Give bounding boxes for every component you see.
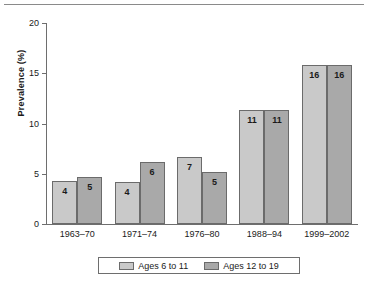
y-axis-tick-mark [42,174,47,175]
bar-value-label: 11 [240,115,263,125]
bar-value-label: 11 [265,115,288,125]
bar-value-label: 7 [178,162,201,172]
legend-entry[interactable]: Ages 6 to 11 [119,261,188,271]
y-axis-tick-label: 15 [29,68,39,78]
bar[interactable]: 6 [140,162,165,224]
x-axis-tick-label: 1971–74 [108,229,170,239]
bar[interactable]: 11 [239,110,264,224]
y-axis-tick-label: 10 [29,119,39,129]
legend-entry[interactable]: Ages 12 to 19 [204,261,279,271]
y-axis-tick-label: 0 [34,219,39,229]
legend-label: Ages 6 to 11 [138,261,188,271]
bar-chart-figure: Prevalence (%) 05101520 45467511111616 1… [0,0,372,288]
legend-label: Ages 12 to 19 [223,261,279,271]
bar-group: 1616 [302,23,352,224]
chart-legend: Ages 6 to 11Ages 12 to 19 [98,257,300,274]
bar-value-label: 4 [53,186,76,196]
x-axis-tick-label: 1999–2002 [296,229,358,239]
bar[interactable]: 5 [202,172,227,224]
legend-color-swatch [119,262,134,270]
top-divider [4,4,364,5]
bar[interactable]: 4 [52,181,77,224]
legend-color-swatch [204,262,219,270]
bar[interactable]: 4 [115,182,140,224]
bar-value-label: 6 [141,167,164,177]
bar-group: 1111 [239,23,289,224]
x-axis-line [46,224,358,225]
y-axis-tick-mark [42,73,47,74]
bar-group: 46 [115,23,165,224]
y-axis-tick-label: 20 [29,18,39,28]
y-axis-tick-mark [42,124,47,125]
plot-area: 05101520 45467511111616 1963–701971–7419… [46,23,358,224]
y-axis-title: Prevalence (%) [16,18,26,148]
y-axis-tick-mark [42,23,47,24]
y-axis-tick-label: 5 [34,169,39,179]
bar-group: 75 [177,23,227,224]
bar-value-label: 4 [116,187,139,197]
bar-value-label: 16 [303,70,326,80]
bar[interactable]: 11 [264,110,289,224]
bar-group: 45 [52,23,102,224]
bar[interactable]: 16 [302,65,327,224]
bar-value-label: 5 [78,182,101,192]
bar[interactable]: 16 [327,65,352,224]
bar-value-label: 5 [203,177,226,187]
x-axis-tick-label: 1988–94 [233,229,295,239]
x-axis-tick-label: 1976–80 [171,229,233,239]
bar-value-label: 16 [328,70,351,80]
x-axis-tick-label: 1963–70 [46,229,108,239]
bar[interactable]: 7 [177,157,202,224]
y-axis-tick-mark [42,224,47,225]
bar[interactable]: 5 [77,177,102,224]
